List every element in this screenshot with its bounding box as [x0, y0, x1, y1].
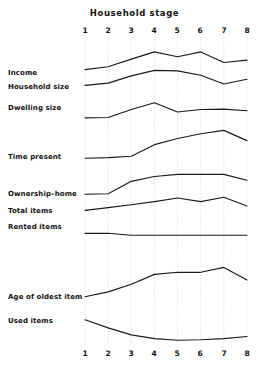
top-tick-7: 7 [217, 26, 231, 35]
series-label-income: Income [8, 69, 37, 77]
top-tick-4: 4 [147, 26, 161, 35]
top-tick-1: 1 [78, 26, 92, 35]
top-tick-8: 8 [240, 26, 254, 35]
series-label-time-present: Time present [8, 153, 61, 161]
series-line-time-present [85, 130, 247, 158]
plot-area [0, 0, 269, 367]
gridlines [85, 34, 247, 345]
household-stage-chart: Household stage 1 2 3 4 5 6 7 8 1 2 3 4 … [0, 0, 269, 367]
series-label-ownership-home: Ownership–home [8, 190, 77, 198]
series-line-rented-items [85, 233, 247, 235]
bottom-tick-6: 6 [193, 349, 207, 358]
series-line-dwelling-size [85, 103, 247, 118]
top-tick-3: 3 [124, 26, 138, 35]
bottom-tick-1: 1 [78, 349, 92, 358]
series-line-ownership-home [85, 174, 247, 194]
series-label-used-items: Used items [8, 317, 53, 325]
series-lines [85, 52, 247, 340]
series-label-age-of-oldest-item: Age of oldest item [8, 293, 82, 301]
series-line-total-items [85, 197, 247, 210]
series-line-age-of-oldest-item [85, 267, 247, 296]
series-line-used-items [85, 320, 247, 341]
top-tick-6: 6 [193, 26, 207, 35]
bottom-tick-2: 2 [101, 349, 115, 358]
series-line-household-size [85, 70, 247, 85]
series-label-dwelling-size: Dwelling size [8, 104, 61, 112]
top-tick-2: 2 [101, 26, 115, 35]
bottom-tick-7: 7 [217, 349, 231, 358]
series-label-rented-items: Rented items [8, 223, 62, 231]
series-label-household-size: Household size [8, 83, 69, 91]
series-line-income [85, 52, 247, 70]
bottom-tick-4: 4 [147, 349, 161, 358]
top-tick-5: 5 [170, 26, 184, 35]
bottom-tick-8: 8 [240, 349, 254, 358]
bottom-tick-5: 5 [170, 349, 184, 358]
chart-title: Household stage [0, 8, 269, 18]
series-label-total-items: Total items [8, 207, 53, 215]
bottom-tick-3: 3 [124, 349, 138, 358]
